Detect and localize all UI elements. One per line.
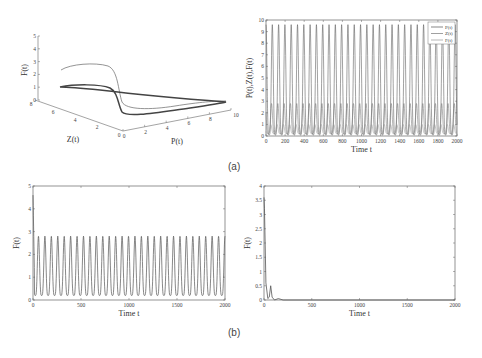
x-tick-label: 1500 xyxy=(402,302,413,308)
y-tick-label: 3 xyxy=(259,212,262,218)
x-tick-label: 2 xyxy=(144,129,147,135)
y-tick-label: 8 xyxy=(261,40,264,46)
z-axis-label: F(t) xyxy=(20,64,29,76)
transient-trajectory xyxy=(61,64,226,109)
x-axis-label: Time t xyxy=(349,309,371,318)
x-tick-label: 2000 xyxy=(452,138,463,144)
x-tick-label: 1400 xyxy=(394,138,405,144)
y-tick-label: 5 xyxy=(261,75,264,81)
series-line xyxy=(264,197,455,300)
y-tick-label: 4 xyxy=(74,117,77,123)
y-axis-label: P(t),Z(t),F(t) xyxy=(245,57,254,98)
x-tick-label: 10 xyxy=(233,112,239,118)
caption-a: (a) xyxy=(228,161,240,172)
figure: 0200400600800100012001400160018002000012… xyxy=(0,0,482,358)
caption-b: (b) xyxy=(228,327,240,338)
z-tick-label: 0 xyxy=(33,97,36,103)
x-tick-label: 1800 xyxy=(432,138,443,144)
y-tick-label: 3 xyxy=(261,98,264,104)
y-tick-label: 0 xyxy=(259,297,262,303)
y-tick-label: 0 xyxy=(28,297,31,303)
y-tick-label: 2 xyxy=(261,110,264,116)
y-axis-label: Z(t) xyxy=(67,135,80,144)
legend-label: P(t) xyxy=(445,25,453,30)
y-tick-label: 0 xyxy=(118,132,121,138)
legend-label: Z(t) xyxy=(445,31,453,36)
x-tick-label: 500 xyxy=(77,302,86,308)
z-tick-label: 5 xyxy=(33,33,36,39)
x-tick-label: 1200 xyxy=(375,138,386,144)
z-tick-label: 1 xyxy=(33,84,36,90)
y-tick-label: 2 xyxy=(259,240,262,246)
y-tick-label: 1 xyxy=(261,121,264,127)
x-tick-label: 6 xyxy=(187,120,190,126)
y-tick-label: 5 xyxy=(28,183,31,189)
x-tick-label: 2000 xyxy=(220,302,231,308)
x-tick-label: 0 xyxy=(263,302,266,308)
y-tick-label: 9 xyxy=(261,29,264,35)
x-tick-label: 800 xyxy=(338,138,347,144)
x-tick-label: 1500 xyxy=(172,302,183,308)
x-tick-label: 600 xyxy=(319,138,328,144)
z-tick-label: 3 xyxy=(33,59,36,65)
x-axis-label: Time t xyxy=(351,145,373,154)
z-tick-label: 4 xyxy=(33,46,36,52)
x-tick-label: 1000 xyxy=(354,302,365,308)
limit-cycle xyxy=(60,85,226,115)
x-tick-label: 8 xyxy=(209,116,212,122)
chart-a-left-3d: 024681002468012345Z(t)P(t)F(t) xyxy=(20,33,239,146)
z-tick-label: 2 xyxy=(33,71,36,77)
x-tick-label: 4 xyxy=(166,125,169,131)
x-tick-label: 0 xyxy=(265,138,268,144)
y-tick-label: 4 xyxy=(261,87,264,93)
y-tick-label: 3 xyxy=(28,229,31,235)
chart-b-right: 050010001500200000.511.522.533.54Time tF… xyxy=(243,183,461,318)
y-tick-label: 6 xyxy=(52,109,55,115)
x-tick-label: 200 xyxy=(281,138,290,144)
x-tick-label: 1000 xyxy=(356,138,367,144)
y-tick-label: 4 xyxy=(259,183,262,189)
y-tick-label: 2 xyxy=(28,251,31,257)
chart-a-right: 0200400600800100012001400160018002000012… xyxy=(245,17,463,154)
y-tick-label: 0.5 xyxy=(255,283,262,289)
y-tick-label: 2 xyxy=(96,124,99,130)
x-tick-label: 500 xyxy=(308,302,317,308)
x-tick-label: 0 xyxy=(123,133,126,139)
y-tick-label: 0 xyxy=(261,133,264,139)
legend: P(t)Z(t)F(t) xyxy=(428,22,455,44)
x-tick-label: 1000 xyxy=(124,302,135,308)
y-tick-label: 4 xyxy=(28,206,31,212)
y-tick-label: 3.5 xyxy=(255,197,262,203)
x-tick-label: 1600 xyxy=(413,138,424,144)
legend-label: F(t) xyxy=(445,38,453,43)
y-tick-label: 10 xyxy=(259,17,265,23)
y-tick-label: 1 xyxy=(28,274,31,280)
y-tick-label: 7 xyxy=(261,52,264,58)
x-tick-label: 400 xyxy=(300,138,309,144)
x-axis-label: P(t) xyxy=(171,137,183,146)
y-axis-label: F(t) xyxy=(243,237,252,249)
chart-b-left: 0500100015002000012345Time tF(t) xyxy=(12,183,231,318)
y-tick-label: 8 xyxy=(30,101,33,107)
y-tick-label: 1.5 xyxy=(255,254,262,260)
y-axis-label: F(t) xyxy=(12,237,21,249)
x-axis-label: Time t xyxy=(119,309,141,318)
y-tick-label: 2.5 xyxy=(255,226,262,232)
y-tick-label: 6 xyxy=(261,63,264,69)
x-tick-label: 2000 xyxy=(450,302,461,308)
y-tick-label: 1 xyxy=(259,269,262,275)
x-tick-label: 0 xyxy=(32,302,35,308)
series-line xyxy=(33,195,225,295)
